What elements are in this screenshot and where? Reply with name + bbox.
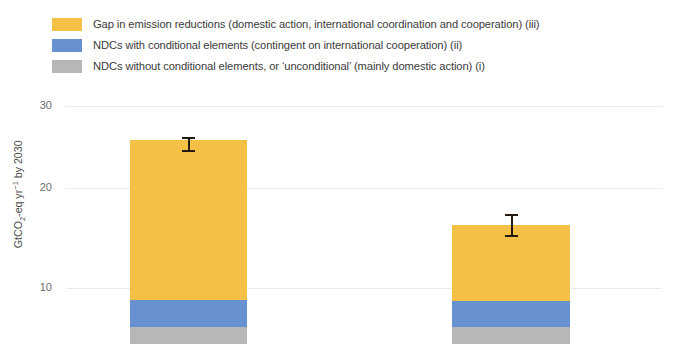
plot-area: GtCO2-eq yr−1 by 2030 30 20 10 <box>0 90 676 344</box>
y-tick-20: 20 <box>12 181 52 193</box>
legend-item-unconditional: NDCs without conditional elements, or ‘u… <box>52 56 662 76</box>
error-bar-cap-bottom-1 <box>182 150 195 152</box>
bar-group-2[interactable] <box>452 225 570 344</box>
error-bar-1 <box>182 137 195 152</box>
legend-label-unconditional: NDCs without conditional elements, or ‘u… <box>93 60 485 73</box>
legend-item-gap: Gap in emission reductions (domestic act… <box>52 14 662 34</box>
bar-segment-conditional-2 <box>452 301 570 327</box>
legend-label-gap: Gap in emission reductions (domestic act… <box>93 18 539 31</box>
chart-legend: Gap in emission reductions (domestic act… <box>52 14 662 77</box>
legend-swatch-unconditional <box>52 60 82 73</box>
error-bar-2 <box>505 214 518 237</box>
y-tick-10: 10 <box>12 281 52 293</box>
y-tick-30: 30 <box>12 99 52 111</box>
legend-label-conditional: NDCs with conditional elements (continge… <box>93 39 462 52</box>
error-bar-cap-bottom-2 <box>505 235 518 237</box>
y-axis-label: GtCO2-eq yr−1 by 2030 <box>11 109 28 279</box>
bar-segment-conditional-1 <box>130 300 247 327</box>
bar-segment-gap-1 <box>130 140 247 300</box>
legend-swatch-conditional <box>52 39 82 52</box>
legend-swatch-gap <box>52 18 82 31</box>
bar-group-1[interactable] <box>130 140 247 344</box>
error-bar-stem-2 <box>511 214 513 237</box>
bar-segment-unconditional-2 <box>452 327 570 344</box>
gridline-30 <box>66 106 662 107</box>
bar-segment-unconditional-1 <box>130 327 247 344</box>
legend-item-conditional: NDCs with conditional elements (continge… <box>52 35 662 55</box>
emissions-gap-chart: Gap in emission reductions (domestic act… <box>0 0 676 344</box>
